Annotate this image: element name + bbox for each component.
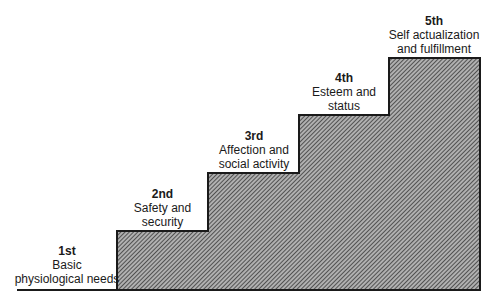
step-3-line2: social activity: [206, 157, 302, 171]
step-2-line1: Safety and: [117, 201, 208, 215]
step-5-line2: and fulfillment: [384, 42, 484, 56]
step-5-line1: Self actualization: [384, 28, 484, 42]
step-1-line1: Basic: [14, 258, 120, 272]
step-3-label: 3rd Affection and social activity: [206, 129, 302, 171]
step-4-line2: status: [299, 99, 389, 113]
step-1-label: 1st Basic physiological needs: [14, 244, 120, 286]
step-2-rank: 2nd: [117, 187, 208, 201]
step-4-rank: 4th: [299, 71, 389, 85]
step-1-rank: 1st: [14, 244, 120, 258]
step-3-line1: Affection and: [206, 143, 302, 157]
step-3-rank: 3rd: [206, 129, 302, 143]
step-4-label: 4th Esteem and status: [299, 71, 389, 113]
step-2-line2: security: [117, 215, 208, 229]
step-5-label: 5th Self actualization and fulfillment: [384, 14, 484, 56]
step-4-line1: Esteem and: [299, 85, 389, 99]
step-2-label: 2nd Safety and security: [117, 187, 208, 229]
step-1-line2: physiological needs: [14, 272, 120, 286]
step-5-rank: 5th: [384, 14, 484, 28]
